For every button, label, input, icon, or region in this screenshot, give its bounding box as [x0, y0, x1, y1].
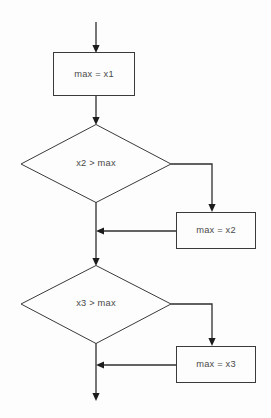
- edge-decision-x2-true-branch: [171, 164, 212, 207]
- arrowhead-exit: [92, 393, 99, 401]
- decision-label-x3: x3 > max: [76, 298, 116, 308]
- arrowhead-decision-x3-true-branch: [208, 338, 215, 346]
- arrowhead-decision-x2-true-branch: [208, 204, 215, 212]
- node-assign-max-x2[interactable]: max = x2: [177, 213, 256, 249]
- flowchart-canvas: max = x1 x2 > max max = x2 x3 > max max …: [0, 0, 271, 418]
- arrowhead-decision-x2-false-trunk: [92, 258, 99, 266]
- edge-decision-x3-true-branch: [171, 304, 212, 341]
- arrowhead-assign-x1-to-decision-x2: [92, 117, 99, 125]
- process-label-max-x1: max = x1: [74, 69, 114, 79]
- flowchart-svg: max = x1 x2 > max max = x2 x3 > max max …: [0, 0, 271, 418]
- decision-label-x2: x2 > max: [76, 158, 116, 168]
- node-decision-x3[interactable]: x3 > max: [21, 266, 171, 344]
- node-decision-x2[interactable]: x2 > max: [21, 125, 171, 203]
- process-label-max-x2: max = x2: [196, 225, 236, 235]
- arrowhead-entry-to-assign-x1: [92, 45, 99, 53]
- arrowhead-assign-x3-merge-back: [96, 361, 104, 368]
- process-label-max-x3: max = x3: [196, 359, 236, 369]
- node-assign-max-x3[interactable]: max = x3: [177, 347, 256, 383]
- arrowhead-assign-x2-merge-back: [96, 227, 104, 234]
- node-assign-max-x1[interactable]: max = x1: [54, 53, 135, 96]
